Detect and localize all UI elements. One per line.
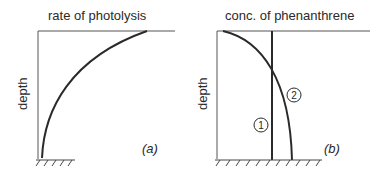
panel-b-tag: (b): [324, 141, 340, 156]
figure: rate of photolysis depth (a) conc. of ph…: [0, 0, 388, 185]
panel-b-curve-1-label: 1: [254, 118, 268, 132]
svg-text:1: 1: [258, 120, 264, 131]
panel-b-ylabel: depth: [195, 77, 210, 110]
svg-text:2: 2: [291, 90, 297, 101]
panel-b-title: conc. of phenanthrene: [225, 8, 354, 23]
panel-a-title: rate of photolysis: [48, 8, 147, 23]
panel-b-sediment-hatching: [215, 160, 322, 166]
panel-a-tag: (a): [142, 141, 158, 156]
panel-a-rate-curve: [42, 31, 147, 158]
panel-b-curve-2-label: 2: [287, 88, 301, 102]
panel-b-curve-2: [223, 31, 292, 160]
panel-a: rate of photolysis depth (a): [15, 8, 175, 166]
panel-a-sediment-hatching: [36, 160, 75, 166]
panel-a-ylabel: depth: [15, 77, 30, 110]
panel-b: conc. of phenanthrene depth 1 2 (b): [195, 8, 370, 166]
